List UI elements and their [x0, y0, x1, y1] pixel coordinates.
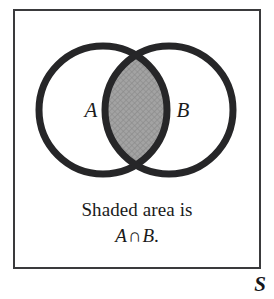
caption-line-one: Shaded area is [13, 198, 261, 222]
set-b-label: B [177, 98, 190, 122]
caption-set-a: A [115, 225, 127, 246]
caption-set-b: B [142, 225, 154, 246]
intersection-operator-icon: ∩ [127, 225, 143, 246]
caption-block: Shaded area is A∩B. [13, 198, 261, 249]
caption-line-two: A∩B. [13, 224, 261, 248]
venn-figure-root: A B Shaded area is A∩B. S [0, 0, 274, 299]
set-a-label: A [83, 98, 98, 122]
corner-marker-label: S [249, 272, 271, 296]
caption-period: . [154, 225, 159, 246]
